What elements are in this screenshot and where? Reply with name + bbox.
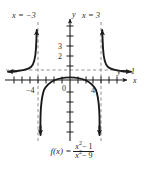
vertical-asymptote-left-label: x = −3 [11, 10, 36, 20]
y-axis-label: y [71, 10, 76, 19]
function-equation-caption: f(x) = x2− 1 x2− 9 [0, 143, 145, 161]
origin-label: 0 [62, 84, 66, 93]
x-axis-label: x [132, 76, 137, 85]
fraction-denominator: x2− 9 [73, 152, 94, 160]
x-tick-label-4: 4 [91, 86, 95, 95]
axis-group [5, 19, 127, 141]
curve-left-branch [12, 30, 37, 72]
equation-row: f(x) = x2− 1 x2− 9 [51, 143, 95, 161]
y-tick-label-3: 3 [58, 42, 62, 51]
equation-fraction: x2− 1 x2− 9 [73, 143, 94, 161]
left-branch-tail-arrow [8, 71, 17, 72]
y-tick-label-2: 2 [58, 52, 62, 61]
rational-function-figure: x = −3 x = 3 y = 1 x y 3 2 −4 4 0 f(x) =… [0, 0, 145, 177]
x-tick-label-neg4: −4 [26, 86, 35, 95]
vertical-asymptote-right-label: x = 3 [81, 10, 100, 20]
equation-left-side: f(x) = [51, 147, 72, 156]
horizontal-asymptote-label: y = 1 [116, 66, 135, 76]
numerator-rest: − 1 [82, 142, 93, 151]
denominator-rest: − 9 [82, 151, 93, 160]
